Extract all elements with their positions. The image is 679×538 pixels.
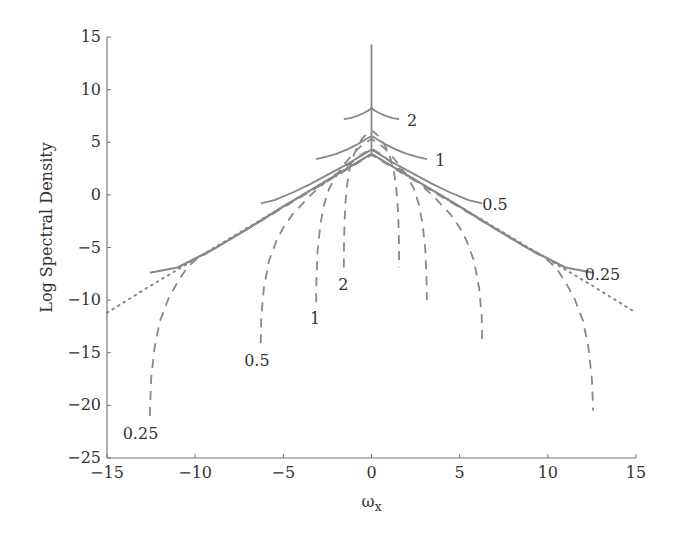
y-tick-label: −15 — [67, 343, 101, 362]
y-tick-label: −25 — [67, 448, 101, 467]
x-tick-label: 10 — [538, 463, 558, 482]
x-tick-label: −10 — [178, 463, 212, 482]
curve-label: 0.25 — [585, 265, 621, 284]
series-filtered-0-25 — [150, 155, 593, 416]
series-true-spectrum — [107, 154, 636, 313]
x-tick-label: 5 — [455, 463, 465, 482]
curve-label: 1 — [310, 309, 320, 328]
x-tick-label: 0 — [366, 463, 376, 482]
curve-label: 0.5 — [244, 351, 269, 370]
y-axis-title: Log Spectral Density — [37, 142, 56, 312]
y-tick-label: −10 — [67, 290, 101, 309]
y-ticks: −25−20−15−10−5051015 — [67, 27, 111, 467]
series-aliased-0-5 — [261, 150, 482, 204]
x-tick-label: −5 — [272, 463, 296, 482]
x-axis-title-main: ω — [362, 492, 375, 511]
x-axis-title-sub: x — [375, 500, 382, 514]
curve-label: 0.5 — [482, 195, 507, 214]
curve-label: 0.25 — [123, 424, 159, 443]
curve-label: 2 — [338, 275, 348, 294]
x-tick-label: 15 — [626, 463, 646, 482]
y-tick-label: 15 — [81, 27, 101, 46]
y-tick-label: 5 — [91, 132, 101, 151]
series-filtered-1 — [316, 139, 427, 302]
curve-labels: 210.50.25210.50.25 — [123, 111, 621, 443]
series-aliased-0-25 — [150, 154, 593, 273]
y-tick-label: −5 — [77, 238, 101, 257]
curve-label: 2 — [407, 111, 417, 130]
plot-lines — [107, 44, 636, 416]
y-tick-label: 10 — [81, 80, 101, 99]
curve-label: 1 — [435, 151, 445, 170]
series-filtered-0-5 — [261, 149, 482, 344]
x-axis-title: ωx — [362, 492, 382, 514]
y-tick-label: −20 — [67, 395, 101, 414]
chart: −15−10−5051015 −25−20−15−10−5051015 210.… — [0, 0, 679, 538]
y-tick-label: 0 — [91, 185, 101, 204]
